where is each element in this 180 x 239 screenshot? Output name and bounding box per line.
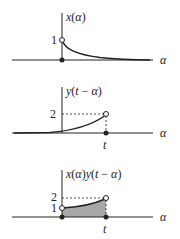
- y-axis-label: x(α): [65, 10, 86, 24]
- y-axis-label: y(t − α): [65, 84, 102, 98]
- tick-1: 1: [51, 201, 57, 215]
- alpha-label: α: [160, 126, 167, 140]
- x-alpha-curve: [63, 42, 150, 60]
- y-curve: [14, 116, 105, 133]
- open-circle-start: [60, 206, 65, 211]
- panel-x-alpha: 1 x(α) α: [12, 10, 167, 67]
- filled-dot: [60, 58, 65, 63]
- alpha-label: α: [160, 53, 167, 67]
- filled-dot: [104, 131, 109, 136]
- tick-1: 1: [51, 33, 57, 47]
- open-circle: [104, 112, 109, 117]
- filled-dot-t: [104, 215, 109, 220]
- convolution-figure: 1 x(α) α 2 y(t − α) t α 2 1 x(α)y(t − α)…: [0, 0, 180, 239]
- t-label: t: [103, 222, 107, 236]
- t-label: t: [103, 138, 107, 152]
- tick-2: 2: [50, 107, 56, 121]
- open-circle: [60, 38, 65, 43]
- panel-y-t-minus-alpha: 2 y(t − α) t α: [12, 84, 167, 152]
- alpha-label: α: [160, 210, 167, 224]
- filled-dot-origin: [60, 215, 65, 220]
- panel-product: 2 1 x(α)y(t − α) t α: [12, 167, 167, 236]
- y-axis-label: x(α)y(t − α): [65, 167, 121, 181]
- open-circle-end: [104, 196, 109, 201]
